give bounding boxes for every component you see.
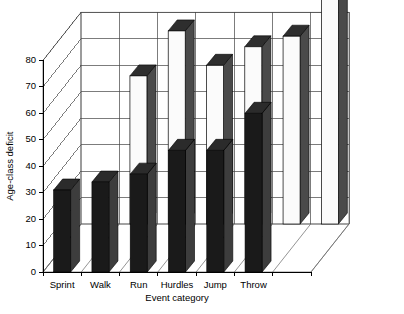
x-category-label: Run xyxy=(130,279,147,290)
y-tick-label: 20 xyxy=(25,213,36,224)
bar-front-jump xyxy=(207,139,233,272)
bar-front-hurdles xyxy=(169,139,195,272)
y-axis-title: Age-class deficit xyxy=(4,131,15,201)
x-category-label: Walk xyxy=(90,279,111,290)
y-tick-label: 10 xyxy=(25,239,36,250)
y-tick-label: 60 xyxy=(25,107,36,118)
x-category-label: Jump xyxy=(204,279,227,290)
bar-front-walk xyxy=(92,171,118,272)
bars-layer xyxy=(54,0,348,272)
y-tick-label: 70 xyxy=(25,80,36,91)
x-category-label: Throw xyxy=(240,279,267,290)
x-category-label: Sprint xyxy=(50,279,75,290)
bar-front-sprint xyxy=(54,179,80,272)
bar-front-run xyxy=(130,163,156,272)
chart-container: 01020304050607080SprintWalkRunHurdlesJum… xyxy=(0,0,404,314)
y-tick-label: 0 xyxy=(31,266,36,277)
y-tick-label: 50 xyxy=(25,133,36,144)
bar-chart-3d: 01020304050607080SprintWalkRunHurdlesJum… xyxy=(0,0,404,314)
x-axis-title: Event category xyxy=(145,292,209,303)
bar-back-throw xyxy=(283,25,309,224)
y-tick-label: 40 xyxy=(25,160,36,171)
y-tick-label: 30 xyxy=(25,186,36,197)
x-category-label: Hurdles xyxy=(161,279,194,290)
y-tick-label: 80 xyxy=(25,54,36,65)
bar-front-throw xyxy=(245,102,271,272)
bar-back-slot7 xyxy=(321,0,347,224)
